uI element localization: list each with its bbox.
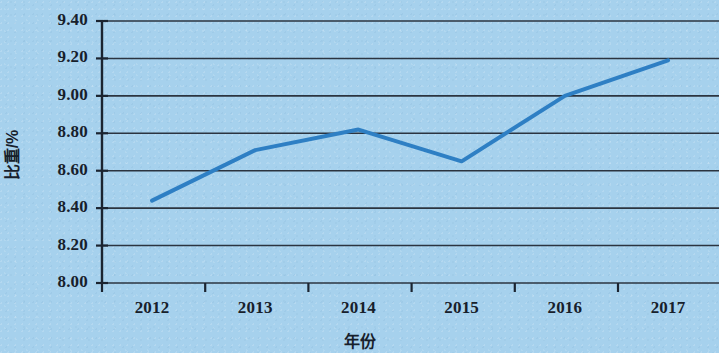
y-tick-label: 8.80 bbox=[18, 122, 88, 142]
gridlines bbox=[102, 21, 719, 283]
x-tick-label: 2013 bbox=[210, 298, 300, 318]
x-tick-label: 2015 bbox=[417, 298, 507, 318]
data-series bbox=[152, 60, 668, 200]
x-axis bbox=[102, 283, 618, 292]
x-tick-label: 2012 bbox=[107, 298, 197, 318]
x-tick-label: 2014 bbox=[313, 298, 403, 318]
x-axis-title: 年份 bbox=[0, 328, 719, 352]
y-tick-label: 9.20 bbox=[18, 47, 88, 67]
line-chart: 8.008.208.408.608.809.009.209.40 2012201… bbox=[0, 0, 719, 353]
y-tick-label: 8.40 bbox=[18, 197, 88, 217]
y-tick-label: 8.20 bbox=[18, 235, 88, 255]
x-tick-label: 2017 bbox=[623, 298, 713, 318]
series-line bbox=[152, 60, 668, 200]
y-tick-label: 8.60 bbox=[18, 160, 88, 180]
y-tick-label: 9.40 bbox=[18, 10, 88, 30]
y-tick-label: 8.00 bbox=[18, 272, 88, 292]
x-tick-label: 2016 bbox=[520, 298, 610, 318]
y-axis bbox=[96, 21, 108, 283]
y-axis-title: 比重/% bbox=[0, 115, 23, 195]
y-tick-label: 9.00 bbox=[18, 85, 88, 105]
